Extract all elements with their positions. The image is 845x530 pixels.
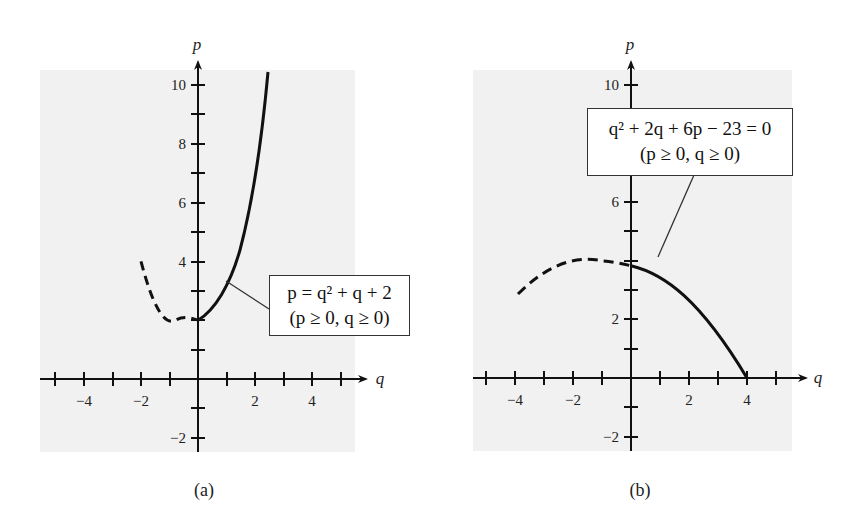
panel-b-p-tick-label: 10 [604, 77, 619, 93]
panel-a-equation-label: p = q² + q + 2 (p ≥ 0, q ≥ 0) [269, 275, 410, 336]
panel-b-p-tick-label: −2 [603, 429, 619, 445]
panel-b-equation-label: q² + 2q + 6p − 23 = 0 (p ≥ 0, q ≥ 0) [587, 108, 793, 176]
panel-b-p-tick-label: 2 [612, 311, 620, 327]
panel-a-p-tick-label: 8 [179, 136, 187, 152]
panel-a-q-tick-label: −2 [133, 393, 149, 409]
panel-b-chart: −4 −2 2 4 10 6 2 −2 p q (b) [473, 35, 823, 501]
panel-a-p-axis-label: p [192, 35, 202, 54]
panel-a-p-tick-label: 4 [179, 254, 187, 270]
panel-a-p-tick-label: −2 [170, 430, 186, 446]
panel-b-q-tick-label: −4 [507, 392, 523, 408]
panel-b-q-axis-label: q [814, 368, 823, 387]
panel-b-p-tick-label: 6 [612, 194, 620, 210]
panel-b-q-tick-label: 2 [685, 392, 693, 408]
figure-canvas: −4 −2 2 4 10 8 6 4 −2 p q (a) [0, 0, 845, 530]
panel-b-equation-line1: q² + 2q + 6p − 23 = 0 [588, 116, 792, 141]
panel-a-q-tick-label: −4 [76, 393, 92, 409]
panel-b-equation-constraint: (p ≥ 0, q ≥ 0) [588, 141, 792, 166]
panel-a-q-tick-label: 2 [251, 393, 259, 409]
panel-a-p-tick-label: 6 [179, 195, 187, 211]
panel-a-p-tick-label: 10 [171, 77, 186, 93]
panel-b-q-tick-label: −2 [565, 392, 581, 408]
panel-b-p-axis-label: p [625, 35, 635, 54]
panel-a-caption: (a) [194, 480, 214, 501]
panel-b-caption: (b) [630, 480, 651, 501]
panel-a-chart: −4 −2 2 4 10 8 6 4 −2 p q (a) [40, 35, 385, 501]
panel-b-q-tick-label: 4 [743, 392, 751, 408]
panel-a-equation-constraint: (p ≥ 0, q ≥ 0) [270, 305, 409, 330]
panel-a-equation-line1: p = q² + q + 2 [270, 280, 409, 305]
panel-a-q-tick-label: 4 [308, 393, 316, 409]
panel-a-q-axis-label: q [376, 369, 385, 388]
